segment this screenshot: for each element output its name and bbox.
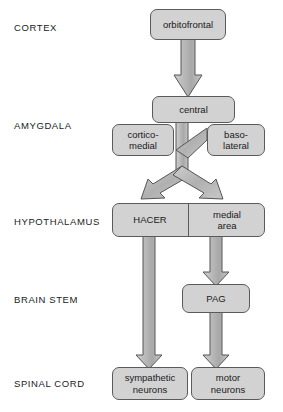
level-label-amygdala: AMYGDALA (14, 120, 72, 131)
node-pag-label: PAG (206, 293, 225, 305)
arrow-orbitofrontal-to-central (174, 38, 202, 97)
arrow-pag-to-motor-neurons (203, 312, 229, 369)
node-baso-lateral-label: baso- lateral (223, 129, 249, 152)
level-label-cortex: CORTEX (14, 22, 57, 33)
node-sympathetic-neurons-label: sympathetic neurons (125, 372, 176, 395)
node-cortico-medial-label: cortico- medial (127, 129, 158, 152)
hypothalamus-group-divider (188, 204, 189, 236)
node-baso-lateral[interactable]: baso- lateral (207, 124, 265, 156)
node-hacer-label: HACER (133, 214, 166, 226)
node-cortico-medial[interactable]: cortico- medial (112, 124, 174, 156)
node-medial-area-label: medial area (213, 209, 241, 232)
level-label-hypothalamus: HYPOTHALAMUS (14, 216, 100, 227)
arrow-junction-to-medial-area (173, 166, 223, 199)
node-sympathetic-neurons[interactable]: sympathetic neurons (112, 367, 188, 400)
arrow-hacer-to-sympathetic-neurons (136, 236, 162, 369)
arrow-medial-area-to-pag (203, 236, 229, 286)
node-motor-neurons[interactable]: motor neurons (191, 367, 265, 400)
node-pag[interactable]: PAG (182, 284, 250, 313)
node-central[interactable]: central (152, 96, 235, 123)
node-orbitofrontal-label: orbitofrontal (163, 19, 213, 31)
node-motor-neurons-label: motor neurons (211, 372, 245, 395)
node-medial-area[interactable]: medial area (189, 203, 265, 237)
node-orbitofrontal[interactable]: orbitofrontal (150, 9, 226, 40)
node-hacer[interactable]: HACER (112, 203, 188, 237)
diagram-canvas: CORTEX AMYGDALA HYPOTHALAMUS BRAIN STEM … (0, 0, 283, 412)
level-label-brain-stem: BRAIN STEM (14, 294, 78, 305)
level-label-spinal-cord: SPINAL CORD (14, 378, 85, 389)
node-central-label: central (179, 104, 208, 116)
